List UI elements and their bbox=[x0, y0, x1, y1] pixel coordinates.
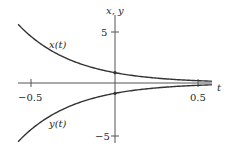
curve-label-x: x(t) bbox=[49, 39, 67, 50]
x-intercept-marker bbox=[113, 71, 116, 74]
axis-label-t: t bbox=[217, 82, 222, 93]
tick-label-neg-half: −0.5 bbox=[18, 92, 42, 103]
tick-label-pos-half: 0.5 bbox=[190, 92, 206, 103]
tick-label-neg-five: −5 bbox=[95, 131, 110, 142]
tick-label-pos-five: 5 bbox=[101, 27, 107, 38]
curve-label-y: y(t) bbox=[48, 118, 67, 129]
axis-label-xy: x, y bbox=[106, 5, 124, 16]
chart: x, y t −0.5 0.5 5 −5 x(t) y(t) bbox=[0, 0, 233, 154]
y-intercept-marker bbox=[113, 92, 116, 95]
